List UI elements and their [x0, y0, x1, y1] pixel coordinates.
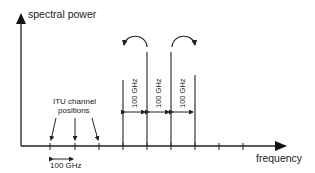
grid-spacing-label: 100 GHz [50, 161, 82, 170]
x-axis [21, 141, 287, 151]
y-axis-label: spectral power [28, 8, 96, 20]
spacing-label: 100 GHz [154, 78, 163, 108]
y-axis-arrow-icon [16, 13, 26, 24]
curved-arrow-right-icon [172, 36, 195, 47]
curved-arrows [124, 36, 195, 47]
curved-arrow-left-icon [124, 36, 147, 47]
x-axis-arrow-icon [275, 141, 287, 151]
spacing-label: 100 GHz [130, 78, 139, 108]
x-axis-label: frequency [256, 152, 302, 164]
itu-label-line1: ITU channel [53, 97, 96, 106]
spacing-label: 100 GHz [178, 78, 187, 108]
itu-label-line2: positions [58, 106, 90, 115]
y-axis [16, 13, 26, 146]
itu-pointer-arrows [51, 118, 98, 140]
